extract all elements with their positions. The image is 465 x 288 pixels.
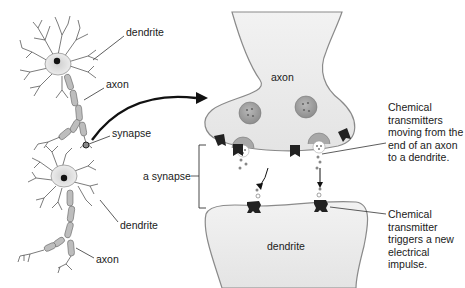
label-synapse: synapse <box>112 127 151 140</box>
label-dendrite-terminal: dendrite <box>267 240 305 253</box>
axon-bottom-terminals <box>18 250 72 273</box>
annotation-transmitters-moving: Chemical transmitters moving from the en… <box>388 101 464 164</box>
synapse-marker-icon <box>83 142 89 148</box>
nucleus-top-icon <box>54 58 60 64</box>
label-dendrite-top: dendrite <box>126 26 164 39</box>
nucleus-bottom-icon <box>61 175 67 181</box>
label-axon-top: axon <box>106 78 129 91</box>
transmitter-arrows <box>260 168 320 186</box>
label-dendrite-bottom: dendrite <box>120 219 158 232</box>
label-axon-terminal: axon <box>271 71 294 84</box>
label-a-synapse: a synapse <box>143 170 191 183</box>
zoom-arrow-head-icon <box>196 92 208 104</box>
neuron-synapse-diagram: dendrite axon synapse dendrite axon axon… <box>0 0 465 288</box>
axon-bottom <box>43 190 75 256</box>
label-axon-bottom: axon <box>96 253 119 266</box>
synapse-bracket <box>199 145 206 208</box>
annotation-new-impulse: Chemical transmitter triggers a new elec… <box>388 208 465 271</box>
transmitter-molecules <box>239 156 322 192</box>
bound-transmitters <box>256 193 321 198</box>
transmitter-arrowheads-icon <box>256 182 323 190</box>
